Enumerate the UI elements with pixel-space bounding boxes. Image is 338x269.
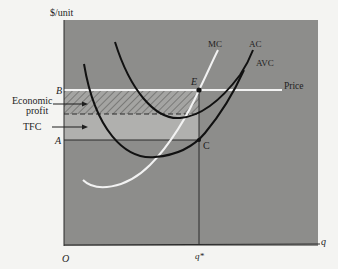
mc-label: MC bbox=[208, 39, 222, 49]
q-star-label: q* bbox=[195, 251, 204, 261]
point-e-marker bbox=[196, 87, 201, 92]
label-a: A bbox=[55, 136, 61, 146]
price-label: Price bbox=[284, 81, 304, 91]
economic-profit-region bbox=[64, 90, 199, 114]
avc-label: AVC bbox=[256, 58, 274, 68]
point-c-marker bbox=[197, 138, 201, 142]
x-axis-label: q bbox=[321, 237, 326, 247]
economic-profit-label-line2: profit bbox=[26, 106, 48, 116]
label-b: B bbox=[56, 86, 62, 96]
origin-label: O bbox=[62, 254, 69, 264]
label-e: E bbox=[191, 77, 197, 87]
label-c: C bbox=[203, 141, 210, 151]
tfc-label: TFC bbox=[23, 122, 41, 132]
y-axis-label: $/unit bbox=[50, 8, 73, 18]
ac-label: AC bbox=[249, 39, 262, 49]
cost-curves-diagram bbox=[0, 0, 338, 269]
